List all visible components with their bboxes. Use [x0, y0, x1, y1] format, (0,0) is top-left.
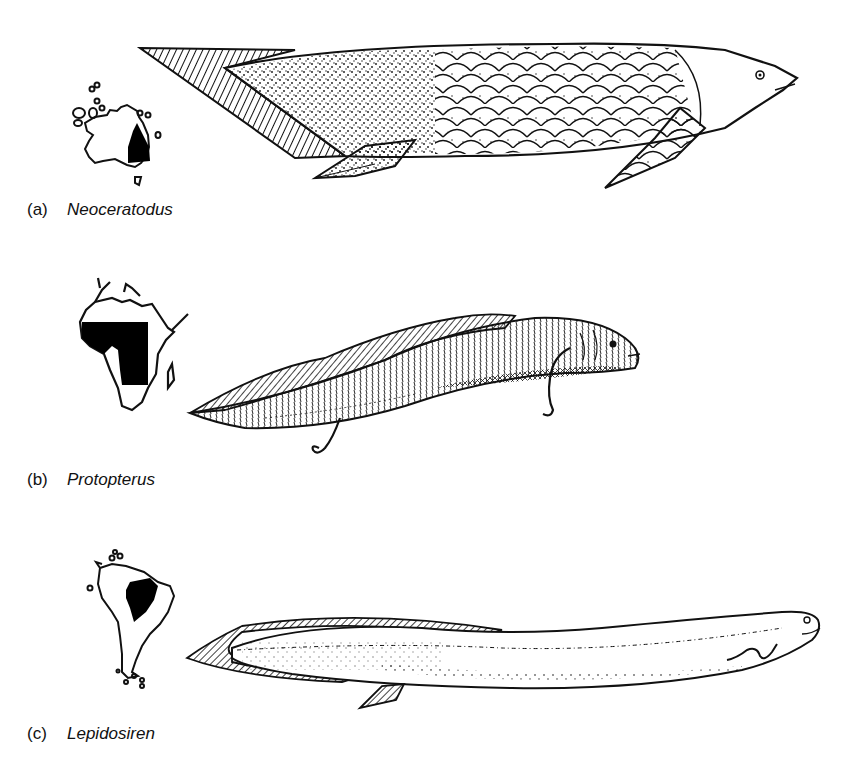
caption-b: (b)Protopterus: [27, 470, 155, 490]
neoceratodus-illustration: [135, 38, 815, 198]
genus-name: Protopterus: [67, 470, 155, 489]
panel-letter: (a): [27, 200, 67, 220]
caption-c: (c)Lepidosiren: [27, 724, 155, 744]
panel-a: (a)Neoceratodus: [0, 0, 848, 240]
genus-name: Lepidosiren: [67, 724, 155, 743]
genus-name: Neoceratodus: [67, 200, 173, 219]
south-america-distribution-map-icon: [72, 526, 182, 696]
panel-letter: (b): [27, 470, 67, 490]
protopterus-illustration: [185, 298, 655, 468]
africa-distribution-map-icon: [60, 270, 200, 430]
caption-a: (a)Neoceratodus: [27, 200, 173, 220]
panel-c: (c)Lepidosiren: [0, 500, 848, 773]
panel-letter: (c): [27, 724, 67, 744]
panel-b: (b)Protopterus: [0, 240, 848, 500]
lepidosiren-illustration: [182, 600, 832, 710]
